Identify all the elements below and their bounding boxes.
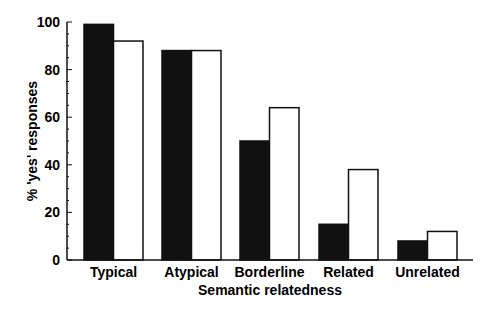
bar-unrelated-series2 bbox=[428, 231, 458, 260]
y-axis-title: % 'yes' responses bbox=[24, 81, 40, 201]
bar-borderline-series2 bbox=[270, 108, 300, 260]
bar-typical-series1 bbox=[84, 24, 114, 260]
bar-related-series2 bbox=[349, 170, 379, 260]
y-tick-label: 60 bbox=[44, 109, 60, 125]
y-tick-label: 100 bbox=[37, 14, 61, 30]
y-tick-label: 0 bbox=[52, 252, 60, 268]
x-tick-label: Borderline bbox=[234, 264, 304, 280]
bar-related-series1 bbox=[319, 224, 349, 260]
bar-unrelated-series1 bbox=[398, 241, 428, 260]
x-labels-group: TypicalAtypicalBorderlineRelatedUnrelate… bbox=[90, 264, 460, 280]
bars-group bbox=[84, 24, 457, 260]
x-tick-label: Atypical bbox=[164, 264, 218, 280]
bar-typical-series2 bbox=[114, 41, 144, 260]
x-tick-label: Related bbox=[323, 264, 374, 280]
x-axis-title: Semantic relatedness bbox=[198, 282, 342, 298]
y-tick-label: 40 bbox=[44, 157, 60, 173]
y-tick-label: 80 bbox=[44, 62, 60, 78]
x-tick-label: Typical bbox=[90, 264, 137, 280]
y-tick-label: 20 bbox=[44, 204, 60, 220]
bar-atypical-series2 bbox=[192, 51, 222, 260]
bar-borderline-series1 bbox=[240, 141, 270, 260]
bar-atypical-series1 bbox=[162, 51, 192, 260]
bar-chart: 020406080100 TypicalAtypicalBorderlineRe… bbox=[0, 0, 492, 311]
x-tick-label: Unrelated bbox=[395, 264, 460, 280]
